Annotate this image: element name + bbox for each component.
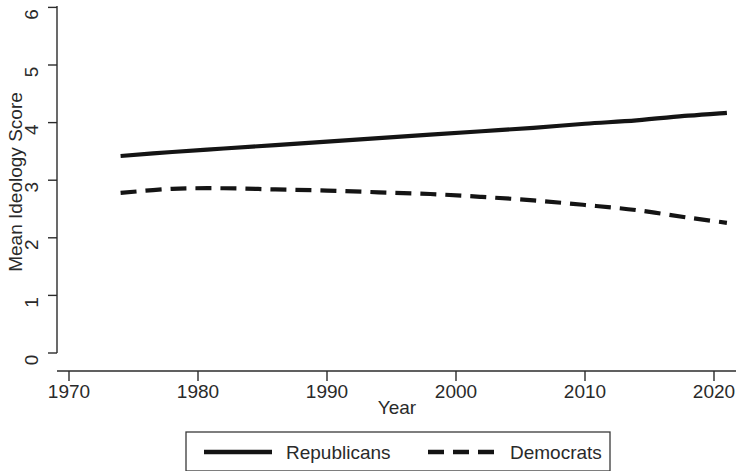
y-tick-label: 6	[21, 9, 42, 20]
y-axis-tick-group: 0123456	[21, 7, 57, 365]
y-tick-label: 0	[21, 355, 42, 366]
legend-label-democrats: Democrats	[510, 442, 602, 463]
x-tick-label: 1980	[177, 381, 219, 402]
x-axis-title: Year	[378, 397, 417, 418]
chart-legend: Republicans Democrats	[186, 432, 610, 471]
y-tick-label: 1	[21, 297, 42, 308]
legend-label-republicans: Republicans	[286, 442, 391, 463]
series-line-democrats	[121, 188, 727, 223]
x-tick-label: 1990	[306, 381, 348, 402]
x-tick-label: 1970	[48, 381, 90, 402]
line-chart: 0123456 197019801990200020102020 Mean Id…	[0, 0, 736, 471]
y-axis-title: Mean Ideology Score	[5, 92, 26, 272]
series-line-republicans	[121, 113, 727, 156]
x-tick-label: 2000	[435, 381, 477, 402]
x-tick-label: 2020	[693, 381, 735, 402]
data-series-group	[121, 113, 727, 223]
x-tick-label: 2010	[564, 381, 606, 402]
y-tick-label: 5	[21, 67, 42, 78]
chart-figure: 0123456 197019801990200020102020 Mean Id…	[0, 0, 736, 471]
